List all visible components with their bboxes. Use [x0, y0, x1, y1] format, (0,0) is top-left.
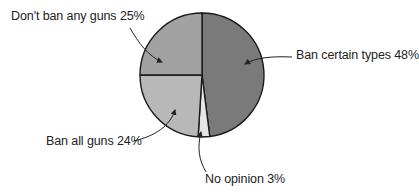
pie-slice-ban-all-guns	[140, 75, 202, 137]
label-ban-certain-types: Ban certain types 48%	[296, 48, 419, 62]
label-dont-ban-any-guns: Don't ban any guns 25%	[11, 9, 145, 23]
pie-slices	[140, 13, 264, 137]
pie-slice-ban-certain-types	[202, 13, 264, 137]
label-ban-all-guns: Ban all guns 24%	[46, 134, 142, 148]
label-no-opinion: No opinion 3%	[205, 172, 285, 186]
pie-slice-don-t-ban-any-guns	[140, 13, 202, 75]
pie-chart	[0, 0, 419, 194]
callout-arrow-no-opinion	[199, 132, 206, 172]
